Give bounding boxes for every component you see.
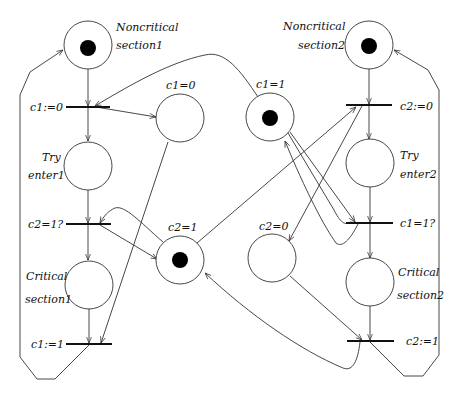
label-cs1-line1: Critical: [26, 270, 68, 283]
label-cs2-line1: Critical: [398, 266, 440, 279]
label-t-c2-set1: c2:=1: [406, 335, 439, 348]
label-try2-line2: enter2: [400, 168, 437, 181]
arc-c1-1-to-t-c1-test1-direct: [290, 132, 355, 222]
place-try-enter1: [64, 142, 112, 190]
arc-t-c1-set0-to-c1-0: [96, 107, 156, 117]
petri-net-diagram: Noncritical section1 Noncritical section…: [0, 0, 458, 397]
place-critical-section2: [346, 258, 394, 306]
label-nc1-line2: section1: [116, 39, 163, 52]
transitions: [66, 105, 394, 344]
place-c2-0: [248, 234, 296, 282]
label-try1-line1: Try: [42, 151, 62, 164]
place-c1-0: [156, 94, 204, 142]
label-c1-1: c1=1: [256, 78, 285, 91]
arc-t-c2-set1-to-c2-1: [205, 273, 360, 369]
arcs: [20, 50, 439, 379]
place-critical-section1: [65, 261, 113, 309]
label-c1-0: c1=0: [166, 79, 195, 92]
label-cs2-line2: section2: [397, 289, 444, 302]
token: [80, 40, 96, 56]
label-try1-line2: enter1: [28, 169, 65, 182]
token: [361, 38, 377, 54]
arc-t-c2-set1-to-nc2: [370, 50, 439, 376]
label-nc1-line1: Noncritical: [115, 21, 179, 34]
label-cs1-line2: section1: [25, 293, 72, 306]
places: [64, 21, 394, 309]
label-t-c1-set1: c1:=1: [31, 338, 64, 351]
label-nc2-line2: section2: [298, 39, 345, 52]
label-nc2-line1: Noncritical: [282, 20, 346, 33]
token: [172, 252, 188, 268]
label-c2-0: c2=0: [259, 220, 288, 233]
label-t-c1-test1: c1=1?: [400, 217, 435, 230]
token: [262, 110, 278, 126]
arc-t-c1-set1-to-nc1: [20, 50, 89, 379]
arc-t-c2-test1-to-c2-1: [100, 225, 157, 259]
label-t-c2-set0: c2:=0: [400, 100, 433, 113]
label-try2-line1: Try: [400, 149, 420, 162]
place-try-enter2: [346, 139, 394, 187]
label-t-c2-test1: c2=1?: [28, 218, 63, 231]
label-c2-1: c2=1: [168, 221, 197, 234]
label-t-c1-set0: c1:=0: [30, 101, 63, 114]
